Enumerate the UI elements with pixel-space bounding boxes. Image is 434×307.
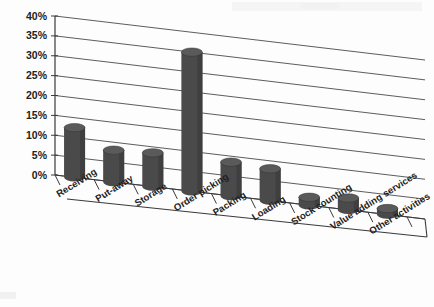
y-axis-tick-label: 30% — [26, 49, 48, 61]
bar-chart-3d: 0%5%10%15%20%25%30%35%40% ReceivingPut-a… — [0, 0, 434, 307]
y-axis-tick-label: 35% — [26, 29, 48, 41]
y-axis-tick-label: 10% — [26, 129, 48, 141]
y-axis-tick-label: 40% — [26, 10, 48, 22]
y-axis-labels: 0%5%10%15%20%25%30%35%40% — [26, 10, 48, 181]
y-axis-tick-label: 20% — [26, 89, 48, 101]
y-axis-tick-label: 5% — [32, 149, 48, 161]
y-axis-tick-label: 0% — [32, 169, 48, 181]
y-axis-tick-label: 25% — [26, 69, 48, 81]
chart-container: 0%5%10%15%20%25%30%35%40% ReceivingPut-a… — [0, 0, 434, 307]
bar-cylinder — [181, 48, 202, 196]
y-axis-tick-label: 15% — [26, 109, 48, 121]
scan-artifact — [0, 2, 422, 299]
